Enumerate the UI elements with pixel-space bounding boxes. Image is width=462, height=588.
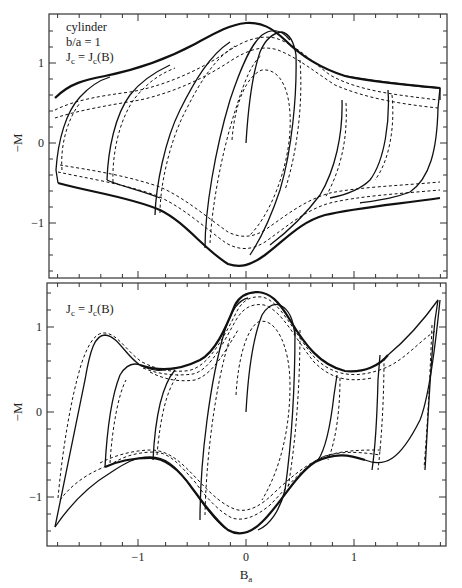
top-virgin-curve bbox=[246, 32, 296, 143]
xtick-1: 1 bbox=[351, 550, 357, 564]
top-panel: 1 0 −1 −M cylinder b/a = 1 Jc = Jc(B) bbox=[10, 14, 447, 278]
bottom-envelope-right bbox=[388, 300, 438, 470]
bottom-ytick-minus1: −1 bbox=[29, 490, 42, 504]
top-ytick-1: 1 bbox=[38, 56, 44, 70]
top-loop-outer-left bbox=[56, 77, 110, 183]
bottom-ticks bbox=[47, 283, 446, 546]
top-ytick-minus1: −1 bbox=[31, 216, 44, 230]
x-tick-labels: −1 0 1 bbox=[132, 550, 357, 564]
top-y-tick-labels: 1 0 −1 bbox=[31, 56, 44, 230]
xtick-0: 0 bbox=[243, 550, 249, 564]
top-dashed-curves bbox=[55, 37, 440, 248]
bottom-axes-frame bbox=[47, 283, 446, 546]
top-y-axis-label: −M bbox=[10, 133, 25, 152]
bottom-loop-4 bbox=[200, 298, 295, 530]
figure: 1 0 −1 −M cylinder b/a = 1 Jc = Jc(B) bbox=[0, 0, 462, 588]
xtick-minus1: −1 bbox=[132, 550, 145, 564]
annotation-aspect-ratio: b/a = 1 bbox=[66, 35, 101, 49]
bottom-ytick-1: 1 bbox=[36, 320, 42, 334]
bottom-envelope-upper bbox=[55, 335, 175, 527]
bottom-y-tick-labels: 1 0 −1 bbox=[29, 320, 42, 504]
top-annotation: cylinder b/a = 1 Jc = Jc(B) bbox=[66, 20, 114, 66]
top-ytick-0: 0 bbox=[38, 136, 44, 150]
x-axis-label: Ba bbox=[240, 567, 253, 584]
bottom-curves bbox=[55, 292, 440, 533]
bottom-envelope-lower-right bbox=[365, 300, 440, 463]
top-loop-3 bbox=[155, 42, 342, 245]
bottom-envelope-lower-bold bbox=[105, 455, 365, 533]
annotation-geometry: cylinder bbox=[66, 20, 108, 34]
bottom-annotation-jc-model: Jc = Jc(B) bbox=[66, 302, 114, 318]
top-envelope-lower bbox=[58, 183, 440, 266]
bottom-loop-3 bbox=[153, 370, 337, 460]
bottom-ytick-0: 0 bbox=[36, 405, 42, 419]
bottom-dashed-curves bbox=[58, 297, 437, 519]
bottom-envelope-upper-bold bbox=[140, 292, 388, 371]
bottom-panel: 1 0 −1 −1 0 1 Ba −M Jc = Jc(B) bbox=[10, 283, 446, 584]
annotation-jc-model: Jc = Jc(B) bbox=[66, 50, 114, 66]
bottom-y-axis-label: −M bbox=[10, 402, 25, 421]
top-loop-2 bbox=[107, 65, 388, 198]
top-loop-outer-right bbox=[360, 88, 440, 203]
